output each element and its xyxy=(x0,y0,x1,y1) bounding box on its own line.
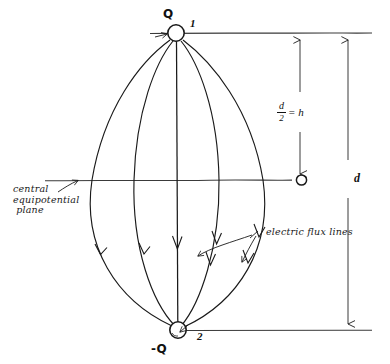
charge-tick-marks xyxy=(155,34,188,336)
flux-lines-label: electric flux lines xyxy=(266,227,353,238)
flux-line-outer-right xyxy=(183,40,265,327)
fraction-denominator: 2 xyxy=(279,113,284,123)
positive-charge-label: Q xyxy=(163,8,174,21)
half-distance-label: d 2 = h xyxy=(277,101,304,123)
flux-line-inner-left xyxy=(134,41,175,326)
full-distance-label: d xyxy=(354,172,360,185)
midpoint-circle-icon xyxy=(296,175,306,185)
central-equipotential-plane-line xyxy=(45,180,292,181)
negative-charge-label: -Q xyxy=(151,343,167,356)
point-1-label: 1 xyxy=(190,17,196,29)
flux-line-center xyxy=(173,41,183,322)
equals-h-label: = h xyxy=(288,106,304,118)
positive-charge-circle xyxy=(168,25,184,41)
flux-label-leader-lines xyxy=(198,231,258,262)
equipotential-plane-label: central equipotential plane xyxy=(13,184,103,216)
fraction-d-over-2: d 2 xyxy=(277,101,286,123)
flux-line-inner-right xyxy=(181,41,222,326)
negative-charge-circle xyxy=(170,322,186,338)
point-2-label: 2 xyxy=(197,330,203,342)
dipole-figure xyxy=(0,0,390,364)
flux-line-outer-left xyxy=(90,40,172,326)
diagram-canvas: Q 1 -Q 2 central equipotential plane ele… xyxy=(0,0,390,364)
fraction-numerator: d xyxy=(279,101,284,112)
